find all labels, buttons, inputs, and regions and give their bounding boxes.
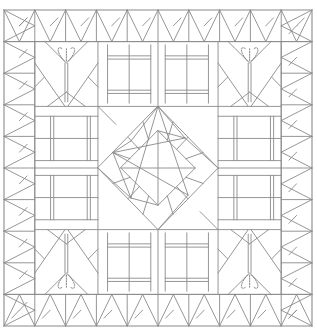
bottom-tri — [158, 294, 173, 326]
left-tri — [4, 247, 35, 263]
bottom-tri-small — [43, 310, 51, 318]
bottom-tri — [4, 294, 19, 326]
bottom-tri — [112, 294, 127, 326]
right-tri — [281, 200, 312, 216]
bottom-tri — [235, 294, 250, 326]
right-tri — [281, 42, 312, 58]
top-tri — [96, 10, 111, 42]
left-tri — [4, 42, 35, 58]
right-tri — [281, 263, 312, 279]
top-tri — [81, 10, 96, 42]
left-tri-small — [19, 239, 27, 247]
top-tri — [143, 10, 158, 42]
right-tri — [281, 279, 312, 295]
left-tri — [4, 10, 35, 26]
left-tri-small — [19, 144, 27, 152]
right-tri — [281, 231, 312, 247]
fan-petal — [58, 275, 64, 288]
fan-diag-small — [218, 249, 227, 259]
fan-diag — [251, 63, 281, 106]
top-tri-small — [235, 18, 243, 26]
bottom-tri — [96, 294, 111, 326]
top-tri — [250, 10, 265, 42]
ring-seg — [143, 196, 149, 214]
left-tri-small — [19, 302, 27, 310]
bottom-tri — [66, 294, 81, 326]
left-tri — [4, 168, 35, 184]
right-tri — [281, 89, 312, 105]
left-tri — [4, 310, 35, 326]
right-tri — [281, 73, 312, 89]
top-tri — [266, 10, 281, 42]
right-tri-small — [289, 279, 297, 287]
top-tri-small — [297, 18, 305, 26]
left-tri-small — [19, 208, 27, 216]
bottom-tri — [266, 294, 281, 326]
right-tri — [281, 294, 312, 310]
bottom-tri-small — [73, 310, 81, 318]
quilt-diagram — [0, 0, 317, 333]
left-tri-small — [19, 18, 27, 26]
fan-diag — [35, 230, 65, 273]
fan-diag-small — [88, 249, 97, 259]
left-tri — [4, 263, 35, 279]
left-tri — [4, 73, 35, 89]
ring-seg — [113, 177, 130, 183]
fan-diag-small — [35, 77, 44, 87]
bottom-tri — [281, 294, 296, 326]
fan-diag — [68, 63, 98, 106]
top-tri — [112, 10, 127, 42]
right-tri-small — [289, 310, 297, 318]
fan-petal — [241, 275, 247, 288]
right-tri-small — [289, 152, 297, 160]
top-tri-small — [204, 18, 212, 26]
top-tri — [35, 10, 50, 42]
fan-petal — [68, 275, 74, 288]
bottom-tri-small — [135, 310, 143, 318]
bottom-tri — [204, 294, 219, 326]
fan-diag-small — [272, 77, 281, 87]
top-tri — [297, 10, 312, 42]
right-tri — [281, 184, 312, 200]
pinwheel-ray — [98, 168, 131, 198]
bottom-tri — [250, 294, 265, 326]
fan-petal — [68, 48, 74, 61]
left-tri — [4, 231, 35, 247]
right-tri-small — [289, 57, 297, 65]
left-tri-small — [19, 113, 27, 121]
top-tri — [66, 10, 81, 42]
top-tri — [4, 10, 19, 42]
left-tri-small — [19, 271, 27, 279]
right-tri — [281, 10, 312, 26]
right-tri — [281, 26, 312, 42]
left-tri — [4, 57, 35, 73]
left-tri — [4, 184, 35, 200]
bottom-tri — [143, 294, 158, 326]
fan-petal — [241, 48, 247, 61]
center-diamond-block — [98, 106, 218, 229]
fan-petal — [252, 275, 258, 288]
fan-petal — [58, 48, 64, 61]
top-tri-small — [143, 18, 151, 26]
left-tri — [4, 294, 35, 310]
right-tri-small — [289, 26, 297, 34]
bottom-tri — [173, 294, 188, 326]
fan-diag — [68, 230, 98, 273]
right-tri — [281, 57, 312, 73]
left-tri — [4, 215, 35, 231]
fan-diag — [251, 230, 281, 273]
left-tri — [4, 105, 35, 121]
top-tri — [50, 10, 65, 42]
left-tri — [4, 26, 35, 42]
left-tri — [4, 200, 35, 216]
fan-petal — [252, 48, 258, 61]
right-tri — [281, 168, 312, 184]
top-tri-small — [266, 18, 274, 26]
right-tri — [281, 247, 312, 263]
right-tri — [281, 105, 312, 121]
left-tri — [4, 89, 35, 105]
ring-seg — [186, 177, 203, 183]
right-tri — [281, 310, 312, 326]
bottom-tri — [50, 294, 65, 326]
bottom-tri — [35, 294, 50, 326]
